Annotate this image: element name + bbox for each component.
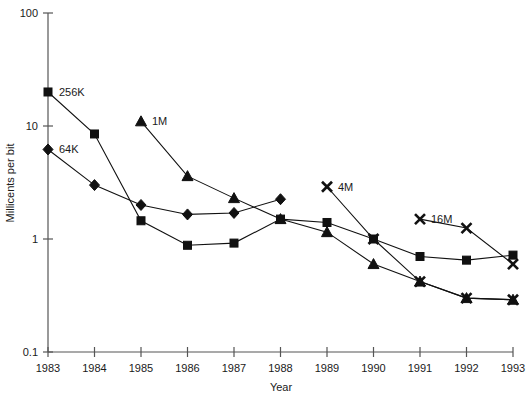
data-point-4m-1989 [322,182,332,192]
x-axis-tick-label: 1990 [361,362,385,374]
data-point-1m-1990 [368,259,379,269]
data-point-64k-1988 [276,194,286,205]
series-labels-group: 256K64K1M4M16M [59,86,452,225]
series-label-64k: 64K [59,143,79,155]
y-axis-title: Millicents per bit [4,144,16,223]
data-point-64k-1985 [136,199,146,210]
series-group [43,88,519,305]
line-chart: 1001010.11983198419851986198719881989199… [0,0,531,399]
data-point-1m-1985 [136,116,147,126]
x-axis-tick-label: 1983 [36,362,60,374]
x-axis-title: Year [270,381,293,393]
data-point-256k-1992 [463,256,471,264]
chart-container: 1001010.11983198419851986198719881989199… [0,0,531,399]
y-axis-tick-label: 1 [32,233,38,245]
data-point-64k-1983 [43,144,53,155]
data-point-256k-1983 [44,88,52,96]
x-axis-tick-label: 1986 [175,362,199,374]
x-axis-tick-label: 1985 [129,362,153,374]
series-label-4m: 4M [338,181,353,193]
axis-titles-group: Year Millicents per bit [4,144,292,393]
data-point-64k-1987 [229,207,239,218]
x-axis-tick-label: 1984 [82,362,106,374]
data-point-1m-1989 [322,227,333,237]
data-point-256k-1991 [416,253,424,261]
data-point-256k-1984 [91,130,99,138]
data-point-256k-1987 [230,239,238,247]
x-axis-tick-label: 1987 [222,362,246,374]
x-axis-tick-label: 1988 [268,362,292,374]
series-line-1m [141,121,513,299]
data-point-1m-1987 [229,193,240,203]
series-label-256k: 256K [59,86,85,98]
data-point-256k-1989 [323,218,331,226]
x-axis-tick-label: 1992 [454,362,478,374]
data-point-256k-1993 [509,251,517,259]
x-axis-tick-label: 1989 [315,362,339,374]
data-point-256k-1986 [184,241,192,249]
data-point-16m-1992 [462,223,472,233]
x-axis-tick-label: 1991 [408,362,432,374]
axes-group: 1001010.11983198419851986198719881989199… [20,7,526,374]
y-axis-tick-label: 10 [26,120,38,132]
data-point-64k-1984 [90,180,100,191]
series-label-16m: 16M [431,213,452,225]
data-point-64k-1986 [183,209,193,220]
data-point-16m-1993 [508,259,518,269]
y-axis-tick-label: 0.1 [23,346,38,358]
data-point-256k-1985 [137,217,145,225]
y-axis-tick-label: 100 [20,7,38,19]
series-line-64k [48,149,281,214]
series-line-256k [48,92,513,260]
data-point-16m-1991 [415,214,425,224]
series-label-1m: 1M [152,115,167,127]
x-axis-tick-label: 1993 [501,362,525,374]
